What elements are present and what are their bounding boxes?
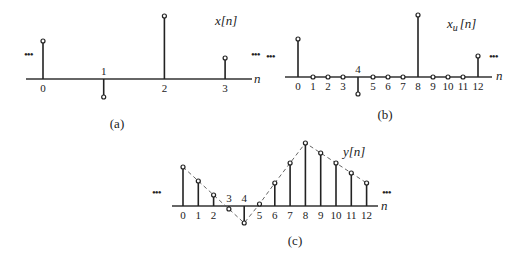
tick-label: 1 [101,65,107,77]
tick-label: 2 [211,209,217,221]
tick-label: 9 [318,209,324,221]
tick-label: 10 [331,209,343,221]
tick-label: 5 [370,80,376,92]
stem-marker [227,207,231,211]
stem-marker [196,179,200,183]
tick-label: 5 [257,209,263,221]
axis-label-n: n [496,68,503,83]
tick-label: 3 [226,192,232,204]
tick-label: 7 [287,209,293,221]
tick-label: 10 [443,80,455,92]
tick-label: 3 [340,80,346,92]
stem-marker [162,14,166,18]
stem-marker [371,75,375,79]
stem-marker [446,75,450,79]
signal-label: x[n] [214,13,237,28]
stem-marker [365,181,369,185]
tick-label: 4 [355,63,361,75]
stem-marker [349,171,353,175]
stem-marker [102,95,106,99]
tick-label: 11 [346,209,357,221]
panel-caption: (c) [288,233,302,248]
tick-label: 2 [325,80,331,92]
tick-label: 6 [385,80,391,92]
ellipsis-right: ••• [489,50,499,62]
stem-marker [41,39,45,43]
tick-label: 0 [180,209,186,221]
axis-label-n: n [381,198,388,213]
stem-marker [273,181,277,185]
stem-marker [326,75,330,79]
stem-marker [341,75,345,79]
tick-label: 9 [430,80,436,92]
tick-label: 8 [415,80,421,92]
axis-label-n: n [254,71,261,86]
stem-marker [476,54,480,58]
signal-label: xu[n] [446,16,476,33]
tick-label: 7 [400,80,406,92]
tick-label: 1 [310,80,316,92]
ellipsis-left: ••• [152,186,162,198]
stem-marker [296,37,300,41]
stem-marker [401,75,405,79]
ellipsis-left: ••• [24,48,34,60]
figure-canvas: 0123••••••nx[n](a)0123456789101112••••••… [0,0,522,261]
tick-label: 11 [458,80,469,92]
tick-label: 0 [40,82,46,94]
panel-caption: (a) [110,116,124,131]
stem-marker [356,92,360,96]
stem-marker [303,141,307,145]
stem-marker [431,75,435,79]
stem-marker [334,161,338,165]
tick-label: 12 [473,80,484,92]
tick-label: 0 [295,80,301,92]
stem-marker [223,56,227,60]
stem-marker [311,75,315,79]
stem-marker [461,75,465,79]
stem-marker [258,202,262,206]
tick-label: 3 [222,82,228,94]
signal-label: y[n] [341,144,365,159]
ellipsis-right: ••• [251,48,261,60]
stem-marker [386,75,390,79]
tick-label: 2 [162,82,168,94]
panel-caption: (b) [377,107,392,122]
stem-marker [288,161,292,165]
stem-marker [242,221,246,225]
tick-label: 12 [361,209,372,221]
ellipsis-left: ••• [266,50,276,62]
stem-marker [181,165,185,169]
stem-marker [212,193,216,197]
tick-label: 6 [272,209,278,221]
stem-marker [416,13,420,17]
tick-label: 4 [241,192,247,204]
tick-label: 8 [303,209,309,221]
stem-marker [319,151,323,155]
ellipsis-right: ••• [382,186,392,198]
tick-label: 1 [196,209,202,221]
